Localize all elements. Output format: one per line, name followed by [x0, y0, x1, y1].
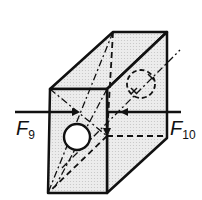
label-f9: F9	[16, 118, 35, 141]
label-f10: F10	[170, 118, 196, 141]
bore-front-circle	[64, 124, 90, 150]
block-diagram	[0, 0, 202, 200]
